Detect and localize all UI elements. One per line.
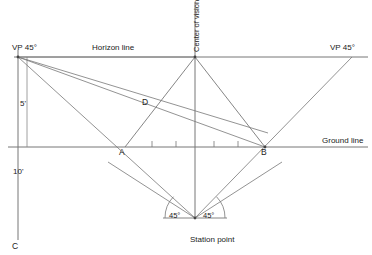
sightline-station-through-b	[195, 162, 282, 218]
height-upper-label: 5'	[20, 100, 26, 108]
perspective-diagram-canvas: VP 45° VP 45° Horizon line Ground line C…	[0, 0, 372, 255]
apex-point	[194, 56, 197, 59]
point-c-label: C	[12, 242, 18, 251]
diagram-svg	[0, 0, 372, 255]
point-a-label: A	[119, 148, 125, 157]
center-of-vision-label: Center of vision	[193, 0, 201, 52]
apex-to-a-line	[125, 57, 195, 147]
ground-line-label: Ground line	[322, 137, 363, 145]
height-lower-label: 10'	[13, 168, 23, 176]
station-point-label: Station point	[190, 236, 234, 244]
angle-right-label: 45°	[203, 212, 214, 220]
ray-vpleft-to-station	[18, 57, 195, 218]
ray-vpleft-to-d-extended	[18, 57, 268, 133]
horizon-line-label: Horizon line	[92, 44, 134, 52]
point-d-label: D	[142, 98, 148, 107]
sightline-station-through-a	[108, 162, 195, 218]
angle-left-label: 45°	[169, 212, 180, 220]
point-b-label: B	[261, 148, 267, 157]
apex-to-b-line	[195, 57, 265, 147]
vp-left-point	[17, 56, 20, 59]
vp-right-label: VP 45°	[330, 44, 355, 52]
vp-left-label: VP 45°	[12, 44, 37, 52]
station-point-marker	[194, 217, 197, 220]
